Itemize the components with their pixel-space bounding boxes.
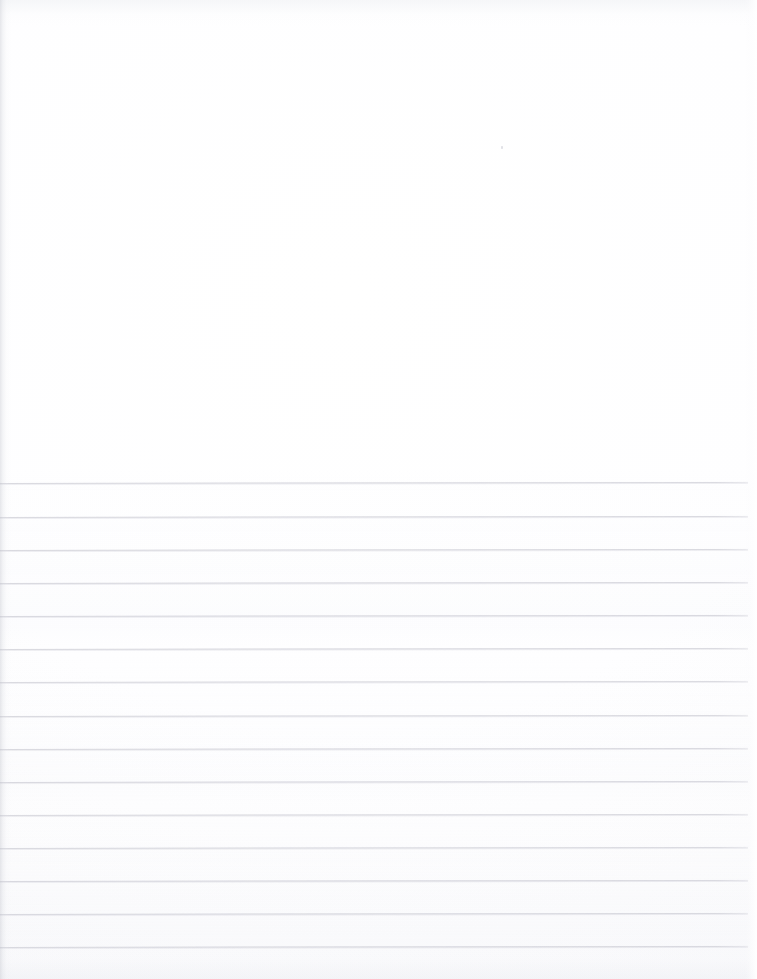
left-edge-shadow — [0, 0, 11, 979]
right-edge-highlight — [745, 0, 757, 979]
scan-noise-overlay — [0, 470, 757, 979]
scanned-page — [0, 0, 757, 979]
top-edge-shadow — [0, 0, 757, 26]
bottom-edge-shadow — [0, 945, 757, 979]
